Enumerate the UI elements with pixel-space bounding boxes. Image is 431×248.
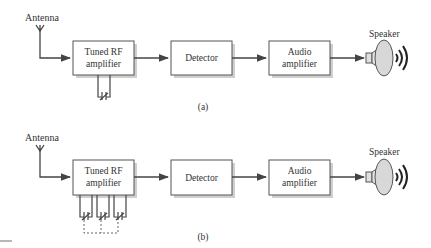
antenna-icon xyxy=(36,25,70,58)
audio-amplifier-block: Audio amplifier xyxy=(269,160,333,198)
block-label: Tuned RF xyxy=(85,47,123,57)
caption-a: (a) xyxy=(198,102,209,113)
speaker-label: Speaker xyxy=(369,29,400,39)
speaker-icon xyxy=(366,40,393,76)
antenna-label: Antenna xyxy=(25,12,59,23)
block-label: amplifier xyxy=(86,59,122,69)
antenna-icon xyxy=(36,145,70,177)
block-label: Detector xyxy=(185,173,219,183)
trf-receiver-diagram: Antenna Tuned RF amplifier Detector xyxy=(0,0,431,248)
speaker-label: Speaker xyxy=(369,147,400,157)
block-label: Tuned RF xyxy=(85,166,123,176)
block-label: Audio xyxy=(288,166,312,176)
detector-block: Detector xyxy=(171,160,235,198)
tuned-rf-amplifier-block: Tuned RF amplifier xyxy=(73,41,137,78)
sound-waves-icon xyxy=(396,165,407,189)
block-label: Detector xyxy=(185,53,219,63)
capacitor-icon xyxy=(114,195,126,220)
block-label: amplifier xyxy=(282,59,318,69)
block-label: Audio xyxy=(288,47,312,57)
block-label: amplifier xyxy=(282,178,318,188)
tuned-rf-amplifier-block: Tuned RF amplifier xyxy=(73,160,137,198)
caption-b: (b) xyxy=(197,232,208,243)
capacitor-icon xyxy=(80,195,92,220)
diagram-a: Antenna Tuned RF amplifier Detector xyxy=(25,12,407,113)
capacitor-icon xyxy=(97,195,109,220)
block-label: amplifier xyxy=(86,178,122,188)
gang-link xyxy=(84,220,118,233)
antenna-label: Antenna xyxy=(25,132,59,143)
capacitor-icon xyxy=(98,75,110,100)
diagram-b: Antenna Tuned RF amplifier xyxy=(25,132,407,243)
speaker-icon xyxy=(366,159,393,195)
detector-block: Detector xyxy=(171,41,235,78)
sound-waves-icon xyxy=(396,46,407,70)
audio-amplifier-block: Audio amplifier xyxy=(269,41,333,78)
